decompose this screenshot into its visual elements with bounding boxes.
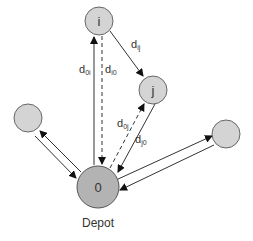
routing-diagram: i j 0 Depot d0i di0 dij d0j dj0 <box>0 0 253 241</box>
label-di0: di0 <box>105 63 117 76</box>
label-dj0: dj0 <box>135 133 147 147</box>
label-d0j: d0j <box>117 117 129 131</box>
edge-0-left <box>40 131 81 172</box>
depot-caption: Depot <box>82 216 115 230</box>
node-j-label: j <box>151 83 155 98</box>
label-d0i: d0i <box>79 63 91 76</box>
node-left <box>14 104 42 132</box>
node-depot-label: 0 <box>94 180 101 195</box>
label-dij: dij <box>131 38 141 52</box>
node-i-label: i <box>98 14 101 29</box>
edge-left-0 <box>35 136 76 178</box>
node-right <box>212 120 240 148</box>
edge-right-0 <box>120 145 214 190</box>
edge-0-right <box>116 136 212 180</box>
